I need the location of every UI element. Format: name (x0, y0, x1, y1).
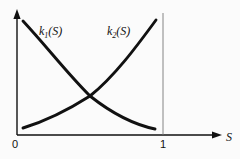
x-tick-label-0: 0 (12, 139, 18, 150)
y-axis-arrowhead (13, 9, 20, 19)
x-axis (17, 131, 222, 138)
curve-label-k1: k1(S) (39, 25, 62, 40)
curve-label-k2: k2(S) (107, 25, 130, 40)
x-tick-label-1: 1 (160, 139, 166, 150)
figure-canvas: k1(S) k2(S) 0 1 S (0, 0, 240, 159)
y-axis (13, 9, 20, 135)
x-axis-arrowhead (212, 131, 222, 138)
curve-label-k1-argument: (S) (48, 24, 62, 38)
x-axis-label: S (226, 131, 232, 143)
curve-label-k2-argument: (S) (116, 24, 130, 38)
